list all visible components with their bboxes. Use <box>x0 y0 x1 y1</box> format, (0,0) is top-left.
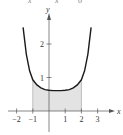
x-tick-label: −2 <box>12 115 21 124</box>
x-tick-label: 2 <box>79 115 83 124</box>
y-tick-label: 2 <box>40 40 44 49</box>
header-token-2: x <box>54 0 59 5</box>
y-ticks: 12 <box>40 40 52 83</box>
y-axis-label: y <box>45 5 50 14</box>
header-token-1: x <box>27 0 32 5</box>
header-fragment: x x 6 <box>27 0 82 5</box>
y-axis-arrow-icon <box>47 13 51 20</box>
y-tick-label: 1 <box>40 74 44 83</box>
x-tick-label: 3 <box>96 115 100 124</box>
graph: x x 6 x y −2−1123 12 <box>0 0 123 135</box>
shaded-region <box>33 80 82 111</box>
x-axis-arrow-icon <box>109 109 115 113</box>
header-token-3: 6 <box>78 0 82 5</box>
x-tick-label: 1 <box>63 115 67 124</box>
curve <box>23 27 91 90</box>
x-tick-label: −1 <box>29 115 38 124</box>
x-axis-label: x <box>116 107 121 116</box>
